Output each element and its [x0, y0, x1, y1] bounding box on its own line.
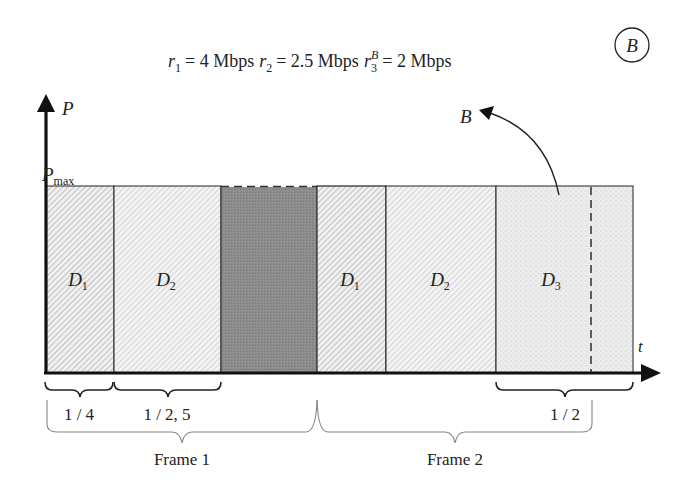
- x-axis-label: t: [638, 337, 644, 356]
- block-f2-d3: [496, 186, 633, 373]
- r2-value: = 2.5 Mbps: [276, 51, 359, 71]
- diagram-canvas: B r1= 4 Mbpsr2= 2.5 Mbpsr3B= 2 Mbps D1 D…: [0, 0, 687, 495]
- brace-label-1-2: 1 / 2: [550, 405, 580, 424]
- brace-1-2: [496, 382, 633, 397]
- x-axis-arrowhead: [641, 364, 661, 382]
- callout-b: B: [460, 106, 559, 195]
- pmax-label: Pmax: [41, 164, 74, 188]
- badge-b: B: [615, 28, 649, 62]
- blocks: D1 D2 D1 D2 D3: [46, 186, 633, 373]
- r3-subscript: 3: [371, 61, 377, 75]
- rates-equation: r1= 4 Mbpsr2= 2.5 Mbpsr3B= 2 Mbps: [168, 48, 451, 75]
- brace-label-1-2-5: 1 / 2, 5: [143, 405, 190, 424]
- r1-value: = 4 Mbps: [185, 51, 254, 71]
- callout-label: B: [460, 106, 472, 127]
- block-gap: [221, 187, 317, 373]
- y-axis-arrowhead: [37, 94, 55, 112]
- r2-subscript: 2: [266, 61, 272, 75]
- brace-1-4: [45, 382, 113, 397]
- braces: [45, 382, 633, 397]
- r3-superscript: B: [371, 48, 379, 62]
- brace-label-1-4: 1 / 4: [64, 405, 95, 424]
- svg-text:r1= 4 Mbpsr2= 2.5 Mbpsr3B= 2 M: r1= 4 Mbpsr2= 2.5 Mbpsr3B= 2 Mbps: [168, 48, 451, 75]
- brace-1-2-5: [114, 382, 221, 397]
- badge-label: B: [626, 35, 638, 56]
- r3-value: = 2 Mbps: [382, 51, 451, 71]
- y-axis-label: P: [61, 98, 74, 119]
- brace-labels: 1 / 4 1 / 2, 5 1 / 2 Frame 1 Frame 2: [64, 405, 580, 469]
- frame-braces: [47, 400, 592, 443]
- callout-arrow: [490, 113, 559, 195]
- frame-1-label: Frame 1: [154, 450, 210, 469]
- frame-2-label: Frame 2: [427, 450, 483, 469]
- r1-subscript: 1: [175, 61, 181, 75]
